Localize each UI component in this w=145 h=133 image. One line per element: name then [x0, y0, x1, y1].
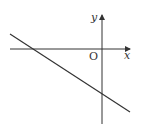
- x-axis-label: x: [124, 49, 131, 62]
- y-axis-label: y: [90, 11, 98, 24]
- coordinate-diagram: y x O: [0, 0, 145, 133]
- origin-label: O: [89, 50, 98, 63]
- graph-line: [10, 34, 130, 112]
